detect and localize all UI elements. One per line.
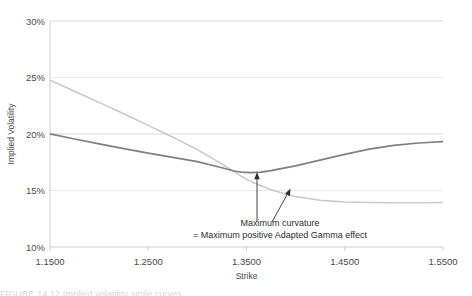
xtick-label-5: 1.5500 [428, 256, 457, 267]
xtick-label-3: 1.3500 [232, 256, 261, 267]
ytick-label-30: 30% [26, 16, 46, 27]
chart-figure: 30% 25% 20% 15% 10% 1.1500 1.2500 1.3500… [0, 0, 472, 296]
x-axis-ticks [50, 247, 443, 251]
annotation-line-2: = Maximum positive Adapted Gamma effect [193, 230, 368, 240]
y-axis-title: Implied Volatility [6, 103, 16, 165]
y-axis-tick-labels: 30% 25% 20% 15% 10% [26, 16, 46, 253]
ytick-label-25: 25% [26, 72, 46, 83]
ytick-label-20: 20% [26, 129, 46, 140]
x-axis-tick-labels: 1.1500 1.2500 1.3500 1.4500 1.5500 [35, 256, 457, 267]
x-axis-title: Strike [236, 271, 258, 281]
xtick-label-4: 1.4500 [330, 256, 359, 267]
figure-caption: FIGURE 14.12 Implied volatility smile cu… [0, 289, 472, 296]
xtick-label-1: 1.1500 [35, 256, 64, 267]
implied-volatility-chart: 30% 25% 20% 15% 10% 1.1500 1.2500 1.3500… [0, 0, 472, 296]
annotation-line-1: Maximum curvature [240, 218, 319, 228]
ytick-label-10: 10% [26, 242, 46, 253]
xtick-label-2: 1.2500 [134, 256, 163, 267]
ytick-label-15: 15% [26, 185, 46, 196]
